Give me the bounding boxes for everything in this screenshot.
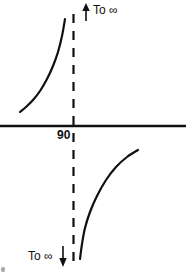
tangent-asymptote-figure: To ∞ To ∞ 90	[0, 0, 186, 276]
arrow-down-icon	[59, 246, 66, 267]
scan-artifact-mark	[1, 267, 5, 272]
label-asymptote-90: 90	[57, 129, 70, 141]
curve-upper-left-branch	[20, 19, 65, 112]
curve-lower-right-branch	[80, 150, 138, 259]
figure-canvas	[0, 0, 186, 276]
label-to-infinity-top: To ∞	[93, 4, 118, 16]
label-to-infinity-bottom: To ∞	[28, 250, 53, 262]
arrow-up-icon	[82, 3, 89, 21]
